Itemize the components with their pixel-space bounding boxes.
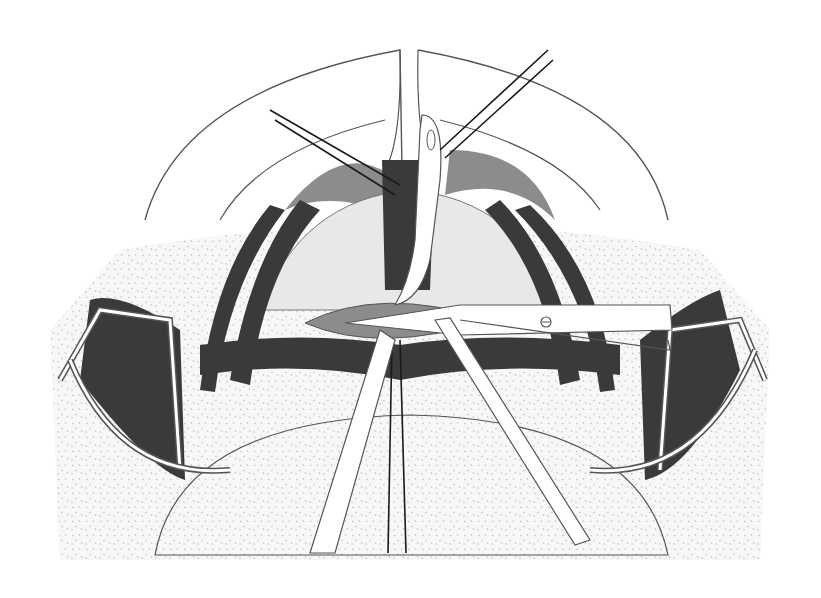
surgical-illustration — [0, 0, 821, 598]
illustration-stage: Surgical illustration: tracheal / midlin… — [0, 0, 821, 598]
